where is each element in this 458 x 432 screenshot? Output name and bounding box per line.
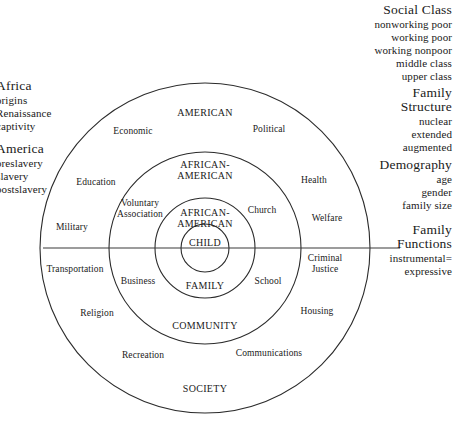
- institution-label-line1: Criminal: [308, 253, 343, 263]
- institution-label-health: Health: [301, 175, 327, 185]
- margin-block-family-structure: Family Structure nuclear extended augmen…: [401, 85, 452, 154]
- margin-item-age: age: [380, 173, 452, 186]
- institution-label-school: School: [255, 276, 282, 286]
- institution-label-line1: Voluntary: [121, 198, 159, 208]
- margin-item-augmented: augmented: [401, 141, 452, 154]
- margin-block-africa: Africa origins Renaissance captivity: [0, 78, 51, 133]
- margin-item-working-poor: working poor: [374, 31, 452, 44]
- margin-item-postslavery: postslavery: [0, 183, 47, 196]
- institution-label-business: Business: [121, 276, 156, 286]
- margin-item-family-size: family size: [380, 199, 452, 212]
- institution-label-communications: Communications: [236, 348, 302, 358]
- margin-item-middle-class: middle class: [374, 57, 452, 70]
- margin-heading-america: America: [0, 141, 47, 157]
- institution-label-line2: Association: [117, 209, 163, 219]
- margin-heading-structure: Structure: [401, 99, 452, 115]
- margin-block-america: America preslavery slavery postslavery: [0, 141, 47, 196]
- margin-item-extended: extended: [401, 128, 452, 141]
- margin-item-upper-class: upper class: [374, 70, 452, 83]
- margin-heading-social-class: Social Class: [374, 2, 452, 18]
- margin-item-captivity: captivity: [0, 120, 51, 133]
- institution-label-education: Education: [76, 177, 115, 187]
- institution-label-religion: Religion: [80, 308, 114, 318]
- institution-label-welfare: Welfare: [312, 213, 343, 223]
- institution-label-line2: Justice: [312, 264, 339, 274]
- margin-item-nuclear: nuclear: [401, 115, 452, 128]
- margin-heading-demography: Demography: [380, 157, 452, 173]
- margin-item-expressive: expressive: [390, 265, 453, 278]
- institution-label-voluntary-association: Voluntary Association: [117, 198, 163, 220]
- ring-label-line2: AMERICAN: [177, 170, 233, 181]
- ring-label-line1: AFRICAN-: [180, 207, 230, 218]
- margin-item-slavery: slavery: [0, 170, 47, 183]
- margin-item-nonworking-poor: nonworking poor: [374, 18, 452, 31]
- ring-label-line1: AFRICAN-: [180, 159, 230, 170]
- concentric-circles-diagram: AMERICAN SOCIETY AFRICAN- AMERICAN COMMU…: [0, 0, 458, 432]
- margin-block-demography: Demography age gender family size: [380, 157, 452, 212]
- ring-label-society: SOCIETY: [183, 384, 227, 395]
- institution-label-transportation: Transportation: [47, 264, 104, 274]
- margin-item-instrumental: instrumental=: [390, 252, 453, 265]
- margin-item-origins: origins: [0, 94, 51, 107]
- margin-item-working-nonpoor: working nonpoor: [374, 44, 452, 57]
- margin-heading-africa: Africa: [0, 78, 51, 94]
- ring-label-african-american-community: AFRICAN- AMERICAN: [177, 159, 233, 181]
- margin-heading-functions: Functions: [390, 236, 453, 252]
- margin-item-gender: gender: [380, 186, 452, 199]
- institution-label-military: Military: [56, 222, 88, 232]
- institution-label-church: Church: [248, 205, 277, 215]
- institution-label-economic: Economic: [113, 126, 152, 136]
- institution-label-recreation: Recreation: [122, 350, 164, 360]
- institution-label-political: Political: [253, 124, 286, 134]
- ring-label-american: AMERICAN: [177, 108, 233, 119]
- margin-item-renaissance: Renaissance: [0, 107, 51, 120]
- ring-label-african-american-family: AFRICAN- AMERICAN: [177, 207, 233, 229]
- margin-block-family-functions: Family Functions instrumental= expressiv…: [390, 222, 453, 278]
- ring-label-community: COMMUNITY: [172, 321, 237, 332]
- ring-label-line2: AMERICAN: [177, 218, 233, 229]
- institution-label-criminal-justice: Criminal Justice: [308, 253, 343, 275]
- institution-label-housing: Housing: [301, 306, 334, 316]
- margin-block-social-class: Social Class nonworking poor working poo…: [374, 2, 452, 83]
- ring-label-child: CHILD: [189, 238, 221, 249]
- margin-item-preslavery: preslavery: [0, 157, 47, 170]
- ring-label-family: FAMILY: [186, 281, 224, 292]
